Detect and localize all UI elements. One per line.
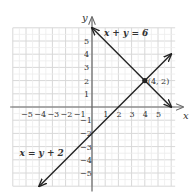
equation-label-2: x = y + 2 bbox=[18, 148, 63, 158]
x-tick-label: 2 bbox=[116, 110, 121, 119]
x-tick-label: −3 bbox=[47, 110, 59, 119]
x-tick-label: 3 bbox=[130, 110, 135, 119]
x-tick-label: −4 bbox=[34, 110, 46, 119]
axes: xy bbox=[10, 12, 189, 192]
intersection-label: (4, 2) bbox=[148, 77, 170, 86]
y-tick-label: 4 bbox=[84, 50, 89, 59]
y-tick-label: 5 bbox=[84, 37, 89, 46]
equation-label-1: x + y = 6 bbox=[103, 28, 149, 38]
y-tick-label: −1 bbox=[80, 116, 92, 125]
y-tick-label: 2 bbox=[84, 77, 89, 86]
x-tick-label: 5 bbox=[156, 110, 161, 119]
y-tick-label: −2 bbox=[80, 129, 92, 138]
y-tick-label: 3 bbox=[84, 63, 89, 72]
x-tick-label: 4 bbox=[143, 110, 148, 119]
x-tick-label: −2 bbox=[61, 110, 73, 119]
y-tick-label: −5 bbox=[80, 169, 92, 178]
x-axis-label: x bbox=[183, 110, 189, 121]
coordinate-graph: xy −5−4−3−2−112345−5−4−3−2−112345 x + y … bbox=[0, 0, 194, 193]
y-tick-label: 1 bbox=[84, 90, 89, 99]
x-tick-label: −5 bbox=[21, 110, 33, 119]
y-axis-label: y bbox=[81, 12, 88, 23]
y-tick-label: −4 bbox=[80, 156, 92, 165]
intersection-point bbox=[142, 78, 147, 83]
